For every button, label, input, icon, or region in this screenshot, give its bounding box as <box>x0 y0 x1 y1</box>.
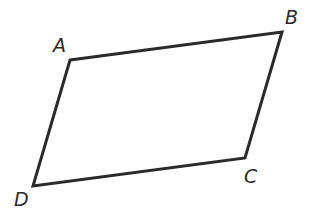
vertex-label-c: C <box>244 165 258 187</box>
parallelogram-abcd <box>33 32 282 186</box>
parallelogram-diagram: A B C D <box>0 0 325 217</box>
vertex-label-b: B <box>285 6 298 28</box>
vertex-label-a: A <box>51 34 66 56</box>
vertex-label-d: D <box>14 188 29 210</box>
